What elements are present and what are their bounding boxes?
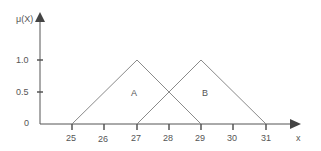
x-axis-label: x	[296, 133, 301, 143]
x-tick-label: 26	[98, 134, 108, 144]
fuzzy-membership-chart	[0, 0, 321, 151]
series-a-label: A	[131, 88, 137, 98]
x-tick-label: 31	[261, 133, 271, 143]
y-tick-label: 0	[24, 118, 29, 128]
x-tick-label: 28	[163, 133, 173, 143]
y-axis-label: μ(X)	[16, 14, 33, 24]
x-axis-arrow-icon	[290, 119, 301, 129]
y-tick-label: 0.5	[16, 87, 29, 97]
x-tick-label: 30	[227, 133, 237, 143]
y-axis-arrow-icon	[35, 12, 45, 22]
series-b-label: B	[202, 88, 208, 98]
x-tick-label: 29	[195, 133, 205, 143]
x-tick-label: 25	[66, 133, 76, 143]
x-ticks	[72, 124, 266, 130]
y-tick-label: 1.0	[16, 55, 29, 65]
x-tick-label: 27	[131, 133, 141, 143]
